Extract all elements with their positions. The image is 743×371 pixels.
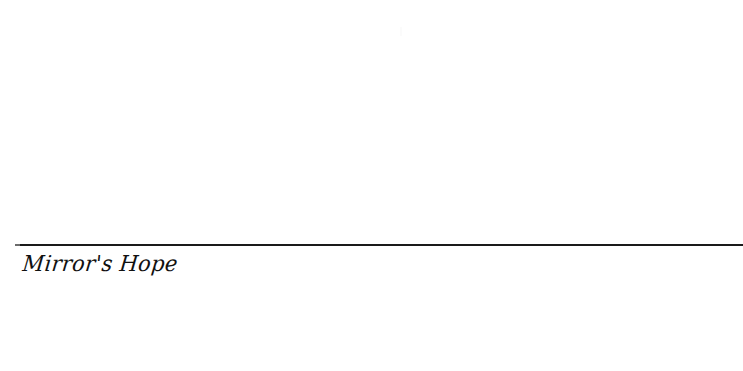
divider-left-tip [15,244,20,246]
lower-blank-area [0,281,743,371]
scan-artifact-speck [400,27,402,36]
inscription-text: Mirror's Hope [21,250,424,281]
scanned-page: Mirror's Hope [0,0,743,371]
upper-blank-area [0,0,743,244]
horizontal-divider-line [15,244,743,246]
